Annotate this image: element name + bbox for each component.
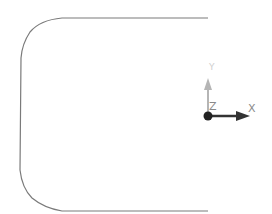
z-axis-label: Z <box>209 100 217 113</box>
coordinate-triad: Y X Z <box>204 62 257 121</box>
sketch-canvas[interactable]: Y X Z <box>0 0 272 214</box>
sketch-profile[interactable] <box>20 18 208 211</box>
origin-point-icon[interactable] <box>204 112 213 121</box>
x-axis-label: X <box>248 102 256 115</box>
y-axis-label: Y <box>208 62 215 72</box>
y-axis-arrow-icon <box>204 78 212 90</box>
